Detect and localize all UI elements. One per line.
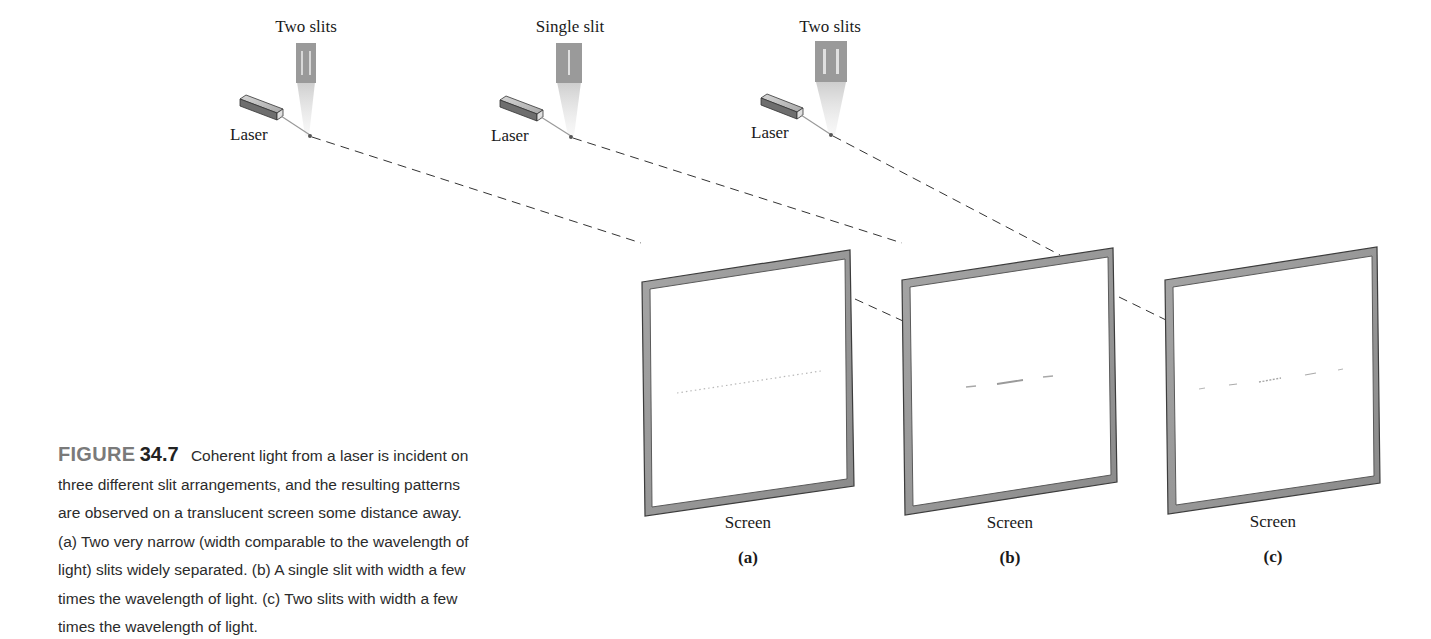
light-cone-b (557, 82, 581, 136)
screen-label-a: Screen (725, 513, 772, 532)
dashed-beam-a (312, 137, 641, 243)
slit-c-2 (836, 49, 839, 74)
screen-a (642, 250, 854, 516)
screen-c (1165, 247, 1380, 514)
setup-c: Two slits Laser (751, 17, 1060, 255)
panel-label-c: (c) (1264, 547, 1283, 566)
dashed-beam-b (573, 138, 902, 243)
slit-plate-a (296, 43, 316, 83)
slit-a-2 (309, 51, 311, 75)
caption-figure-word: FIGURE (58, 443, 135, 465)
panel-label-b: (b) (1000, 548, 1021, 567)
caption-text: Coherent light from a laser is incident … (58, 447, 469, 635)
laser-label-c: Laser (751, 123, 789, 142)
light-cone-c (816, 82, 846, 135)
screen-label-b: Screen (987, 513, 1034, 532)
slit-label-b: Single slit (536, 17, 605, 36)
panel-label-a: (a) (738, 548, 758, 567)
slit-label-a: Two slits (275, 17, 337, 36)
laser-label-a: Laser (230, 125, 268, 144)
slit-a-1 (301, 51, 303, 75)
laser-label-b: Laser (491, 126, 529, 145)
caption-figure-number: 34.7 (140, 443, 179, 465)
figure-caption: FIGURE 34.7 Coherent light from a laser … (58, 440, 478, 639)
dashed-beam-a-continued (855, 299, 903, 321)
laser-icon-a (240, 95, 283, 120)
slit-plate-c (815, 41, 847, 82)
screen-b (902, 248, 1117, 515)
screen-label-c: Screen (1250, 512, 1297, 531)
slit-b-1 (568, 50, 570, 75)
dashed-beam-c (833, 136, 1060, 255)
laser-icon-b (500, 96, 543, 121)
slit-c-1 (823, 49, 826, 74)
dashed-beam-b-continued (1119, 297, 1166, 320)
slit-label-c: Two slits (799, 17, 861, 36)
laser-icon-c (761, 94, 803, 119)
